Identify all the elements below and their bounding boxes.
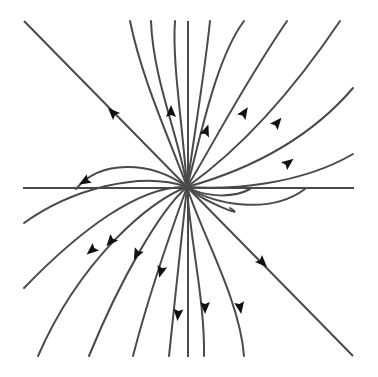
arrowhead-icon — [103, 234, 118, 250]
trajectory-curve — [187, 88, 353, 187]
trajectory-curve — [187, 187, 305, 205]
trajectory-curve — [187, 187, 244, 356]
trajectory-curve — [174, 21, 187, 187]
trajectory-curve — [187, 21, 210, 187]
trajectory-curve — [187, 21, 340, 187]
trajectory-curve — [151, 21, 187, 187]
arrowhead-icon — [270, 114, 285, 130]
arrowhead-icon — [281, 155, 297, 170]
phase-portrait — [0, 0, 378, 377]
arrowhead-icon — [83, 243, 99, 258]
trajectory-curve — [187, 21, 287, 187]
arrowhead-icon — [237, 104, 252, 120]
trajectory-curve — [187, 154, 353, 188]
direction-arrows — [76, 104, 296, 321]
